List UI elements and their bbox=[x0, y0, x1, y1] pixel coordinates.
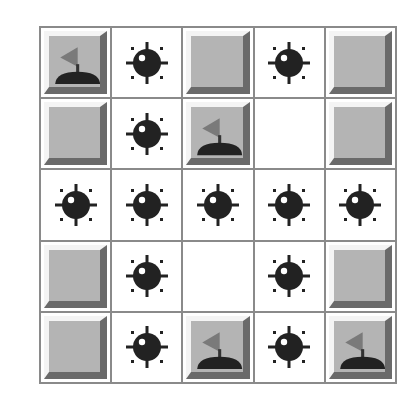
covered-tile bbox=[329, 102, 392, 165]
covered-tile bbox=[186, 31, 249, 94]
mine-icon bbox=[51, 180, 101, 230]
mine-icon bbox=[122, 251, 172, 301]
cell-r2-c4[interactable] bbox=[325, 169, 396, 240]
mine-icon bbox=[264, 180, 314, 230]
mine-icon bbox=[264, 322, 314, 372]
covered-tile bbox=[329, 316, 392, 379]
covered-tile bbox=[44, 31, 107, 94]
cell-r2-c3[interactable] bbox=[254, 169, 325, 240]
mine-icon bbox=[264, 251, 314, 301]
cell-r4-c0[interactable] bbox=[40, 312, 111, 383]
cell-r0-c4[interactable] bbox=[325, 27, 396, 98]
covered-tile bbox=[44, 316, 107, 379]
covered-tile bbox=[329, 245, 392, 308]
covered-tile bbox=[44, 102, 107, 165]
cell-r1-c4[interactable] bbox=[325, 98, 396, 169]
cell-r2-c1[interactable] bbox=[111, 169, 182, 240]
cell-r4-c2[interactable] bbox=[182, 312, 253, 383]
covered-tile bbox=[329, 31, 392, 94]
mine-icon bbox=[122, 180, 172, 230]
cell-r1-c0[interactable] bbox=[40, 98, 111, 169]
cell-r3-c0[interactable] bbox=[40, 241, 111, 312]
cell-r0-c3[interactable] bbox=[254, 27, 325, 98]
cell-r0-c0[interactable] bbox=[40, 27, 111, 98]
cell-r1-c2[interactable] bbox=[182, 98, 253, 169]
cell-r3-c2[interactable] bbox=[182, 241, 253, 312]
cell-r4-c3[interactable] bbox=[254, 312, 325, 383]
covered-tile bbox=[44, 245, 107, 308]
flag-icon bbox=[191, 321, 242, 372]
mine-icon bbox=[122, 109, 172, 159]
flag-icon bbox=[191, 107, 242, 158]
cell-r1-c3[interactable] bbox=[254, 98, 325, 169]
cell-r2-c2[interactable] bbox=[182, 169, 253, 240]
cell-r4-c4[interactable] bbox=[325, 312, 396, 383]
flag-icon bbox=[49, 36, 100, 87]
cell-r3-c1[interactable] bbox=[111, 241, 182, 312]
mine-icon bbox=[264, 38, 314, 88]
covered-tile bbox=[186, 316, 249, 379]
cell-r3-c4[interactable] bbox=[325, 241, 396, 312]
cell-r3-c3[interactable] bbox=[254, 241, 325, 312]
game-board bbox=[39, 26, 397, 384]
mine-icon bbox=[335, 180, 385, 230]
cell-r4-c1[interactable] bbox=[111, 312, 182, 383]
cell-r2-c0[interactable] bbox=[40, 169, 111, 240]
covered-tile bbox=[186, 102, 249, 165]
cell-r1-c1[interactable] bbox=[111, 98, 182, 169]
cell-r0-c1[interactable] bbox=[111, 27, 182, 98]
flag-icon bbox=[334, 321, 385, 372]
cell-r0-c2[interactable] bbox=[182, 27, 253, 98]
mine-icon bbox=[193, 180, 243, 230]
mine-icon bbox=[122, 38, 172, 88]
mine-icon bbox=[122, 322, 172, 372]
